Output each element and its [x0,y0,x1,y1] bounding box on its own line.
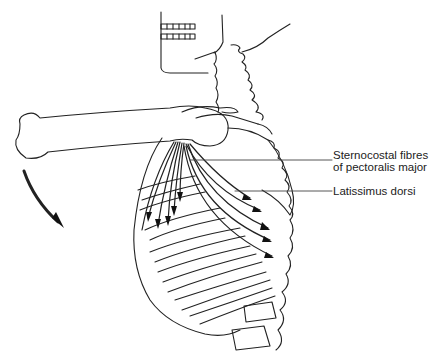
label-latissimus-dorsi: Latissimus dorsi [333,185,415,197]
cervical-spine [214,24,290,120]
label-pectoralis-major: Sternocostal fibres of pectoralis major [333,149,428,173]
thoracic-spine [232,140,293,350]
rib-cage [134,138,275,335]
label-pectoralis-line1: Sternocostal fibres [333,149,428,161]
curved-arrow-down-icon [24,171,58,222]
latissimus-fibres [184,144,272,256]
anatomy-illustration [0,0,437,358]
label-pectoralis-line2: of pectoralis major [333,161,428,173]
